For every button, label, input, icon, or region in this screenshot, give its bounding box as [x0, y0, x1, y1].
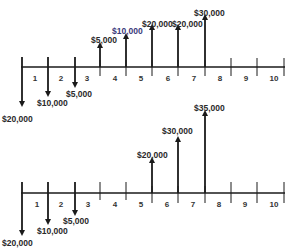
period-label: 3	[86, 200, 91, 209]
flow-label: $20,000	[142, 19, 173, 29]
period-label: 10	[270, 74, 279, 83]
flow-label: $35,000	[194, 103, 225, 113]
flow-label: $5,000	[66, 89, 92, 99]
flow-label: $10,000	[112, 26, 143, 36]
period-label: 8	[218, 74, 223, 83]
flow-label: $10,000	[37, 226, 68, 236]
period-label: 2	[59, 200, 64, 209]
period-label: 6	[166, 74, 171, 83]
top-cash-flow-diagram: 1 2 3 4 5 6 7 8 9 10 $20,000 $10,000 $5,…	[2, 8, 285, 124]
flow-label: $5,000	[63, 216, 89, 226]
period-label: 5	[139, 74, 144, 83]
period-label: 5	[139, 200, 144, 209]
period-label: 9	[243, 200, 248, 209]
cash-flow-diagrams: 1 2 3 4 5 6 7 8 9 10 $20,000 $10,000 $5,…	[0, 0, 292, 248]
period-label: 10	[270, 200, 279, 209]
period-label: 3	[85, 74, 90, 83]
flow-label: $30,000	[194, 8, 225, 18]
flow-label: $20,000	[172, 19, 203, 29]
period-label: 8	[217, 200, 222, 209]
flow-label: $10,000	[37, 98, 68, 108]
period-label: 4	[113, 200, 118, 209]
flow-label: $20,000	[2, 238, 33, 248]
period-label: 7	[192, 74, 197, 83]
flow-label: $30,000	[162, 126, 193, 136]
flow-label: $20,000	[137, 150, 168, 160]
period-label: 2	[59, 74, 64, 83]
period-label: 1	[35, 200, 40, 209]
flow-label: $5,000	[91, 35, 117, 45]
period-label: 1	[33, 74, 38, 83]
period-label: 6	[165, 200, 170, 209]
period-label: 7	[191, 200, 196, 209]
flow-label: $20,000	[2, 114, 33, 124]
bottom-cash-flow-diagram: 1 2 3 4 5 6 7 8 9 10 $20,000 $10,000 $5,…	[2, 103, 285, 248]
period-label: 9	[244, 74, 249, 83]
period-label: 4	[113, 74, 118, 83]
